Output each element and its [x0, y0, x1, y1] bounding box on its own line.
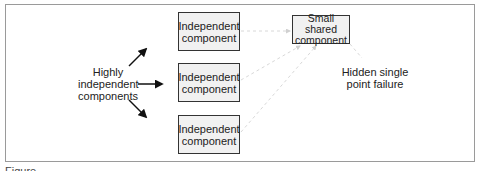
- box-2-line-2: component: [182, 83, 236, 95]
- left-label-line-1: Highly: [78, 66, 138, 78]
- shared-box-line-2: component: [295, 35, 347, 46]
- right-label-line-2: point failure: [340, 78, 410, 90]
- arrow-up-right: [129, 49, 146, 66]
- small-shared-component-box: Small shared component: [292, 15, 350, 44]
- box-3-line-2: component: [182, 135, 236, 147]
- box-1-line-1: Independent: [178, 20, 239, 32]
- independent-component-box-2: Independent component: [178, 63, 240, 102]
- independent-component-box-3: Independent component: [178, 115, 240, 154]
- shared-box-line-1: Small shared: [293, 13, 349, 35]
- figure-caption: Figure . . . . . . . . . .: [5, 165, 97, 171]
- right-label: Hidden single point failure: [340, 66, 410, 90]
- box-3-line-1: Independent: [178, 123, 239, 135]
- left-label-line-2: independent: [78, 78, 138, 90]
- box-2-line-1: Independent: [178, 71, 239, 83]
- box-1-line-2: component: [182, 32, 236, 44]
- left-label-line-3: components: [78, 90, 138, 102]
- dashed-connector-middle: [241, 46, 300, 80]
- arrow-down-right: [129, 100, 146, 117]
- independent-component-box-1: Independent component: [178, 12, 240, 51]
- right-label-line-1: Hidden single: [340, 66, 410, 78]
- dashed-connector-failure: [350, 44, 362, 58]
- left-label: Highly independent components: [78, 66, 138, 102]
